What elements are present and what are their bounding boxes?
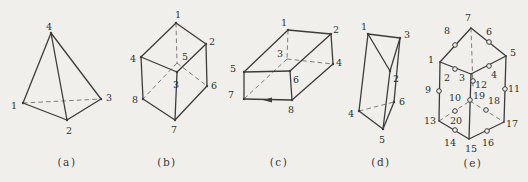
vertex-dot-5 (382, 128, 384, 130)
vertex-label-18: 18 (488, 95, 500, 106)
figure-caption-b: (b) (157, 156, 176, 168)
vertex-label-6: 6 (211, 80, 217, 91)
edge-4-2 (51, 33, 67, 120)
edge-1-4 (141, 23, 176, 57)
vertex-dot-4 (332, 63, 334, 65)
node-circle-2 (453, 67, 458, 72)
vertex-dot-8 (291, 99, 293, 101)
vertex-label-4: 4 (46, 21, 52, 32)
vertex-dot-1 (287, 29, 289, 31)
vertex-dot-1 (22, 102, 24, 104)
hidden-edge-4-6 (359, 102, 394, 111)
vertex-label-6: 6 (399, 96, 405, 107)
edge-4-3 (141, 57, 177, 72)
figure-caption-d: (d) (371, 156, 390, 168)
direction-arrow-icon (263, 97, 272, 102)
vertex-label-9: 9 (425, 84, 431, 95)
vertex-dot-4 (50, 32, 52, 34)
vertex-label-7: 7 (465, 12, 471, 23)
vertex-label-2: 2 (393, 73, 399, 84)
node-circle-9 (437, 89, 442, 94)
vertex-dot-6 (289, 70, 291, 72)
vertex-label-5: 5 (182, 51, 188, 62)
vertex-label-4: 4 (130, 53, 136, 64)
edge-2-4 (331, 34, 333, 64)
polyhedra-diagram-svg: 1234123456781234567812345612345678910111… (0, 0, 528, 182)
vertex-dot-3 (176, 71, 178, 73)
vertex-label-1: 1 (428, 54, 434, 65)
hidden-edge-1-5 (176, 23, 177, 63)
vertex-label-2: 2 (444, 72, 450, 83)
vertex-label-16: 16 (482, 137, 494, 148)
vertex-dot-5 (243, 71, 245, 73)
vertex-label-11: 11 (508, 83, 520, 94)
edge-2-6 (206, 44, 207, 86)
vertex-label-8: 8 (444, 25, 450, 36)
vertex-dot-4 (358, 110, 360, 112)
vertex-label-1: 1 (281, 17, 287, 28)
node-circle-20 (453, 109, 458, 114)
vertex-label-2: 2 (209, 36, 215, 47)
node-circle-18 (484, 108, 489, 113)
hidden-edge-3-4 (287, 59, 333, 64)
figure-caption-a: (a) (58, 156, 77, 168)
vertex-label-8: 8 (288, 104, 294, 115)
figure-twenty-node-hexahedron-e: 1234567891011121314151617181920 (424, 12, 520, 154)
edge-2-3 (67, 99, 101, 120)
hidden-edge-1-3 (23, 99, 101, 103)
vertex-label-13: 13 (424, 115, 436, 126)
vertex-dot-2 (205, 43, 207, 45)
node-circle-4 (487, 64, 492, 69)
vertex-label-4: 4 (491, 69, 497, 80)
vertex-label-3: 3 (459, 72, 465, 83)
vertex-label-6: 6 (486, 26, 492, 37)
vertex-dot-7 (243, 98, 245, 100)
vertex-label-12: 12 (475, 79, 487, 90)
node-circle-16 (485, 129, 490, 134)
vertex-label-5: 5 (230, 63, 236, 74)
node-circle-6 (487, 40, 492, 45)
edge-2-6 (290, 34, 331, 71)
edge-1-3 (368, 34, 400, 38)
edge-4-5 (359, 111, 383, 129)
node-circle-14 (453, 128, 458, 133)
edge-8-7 (143, 99, 175, 120)
vertex-dot-4 (140, 56, 142, 58)
textbook-polyhedra-figure: 1234123456781234567812345612345678910111… (0, 0, 528, 182)
vertex-label-17: 17 (506, 118, 518, 129)
vertex-label-19: 19 (473, 90, 485, 101)
hidden-edge-1-3 (287, 30, 288, 59)
vertex-dot-6 (393, 101, 395, 103)
vertex-label-20: 20 (450, 115, 462, 126)
vertex-label-3: 3 (106, 92, 112, 103)
node-circle-11 (503, 87, 508, 92)
figure-triangular-prism-d: 123456 (348, 21, 410, 145)
vertex-dot-7 (174, 119, 176, 121)
node-circle-10 (468, 98, 473, 103)
figure-caption-e: (e) (464, 157, 483, 169)
figure-hexahedron-b: 12345678 (130, 9, 217, 135)
hidden-edge-5-6 (177, 63, 207, 86)
edge-1-2 (368, 34, 390, 71)
edge-1-2 (176, 23, 206, 44)
edge-1-2 (288, 30, 331, 34)
vertex-label-7: 7 (171, 124, 177, 135)
vertex-label-4: 4 (336, 57, 342, 68)
edge-1-2 (23, 103, 67, 120)
vertex-label-6: 6 (293, 74, 299, 85)
vertex-dot-2 (66, 119, 68, 121)
vertex-dot-1 (175, 22, 177, 24)
vertex-dot-6 (206, 85, 208, 87)
vertex-label-10: 10 (449, 92, 461, 103)
vertex-label-5: 5 (379, 134, 385, 145)
vertex-label-5: 5 (510, 47, 516, 58)
edge-6-5 (244, 71, 290, 72)
vertex-label-4: 4 (348, 108, 354, 119)
vertex-label-14: 14 (444, 137, 456, 148)
hidden-edge-5-8 (143, 63, 177, 99)
edge-1-4 (359, 34, 368, 111)
vertex-label-1: 1 (361, 21, 367, 32)
vertex-label-7: 7 (228, 89, 234, 100)
vertex-label-15: 15 (465, 143, 477, 154)
figure-rectangular-prism-c: 12345678 (228, 17, 342, 115)
